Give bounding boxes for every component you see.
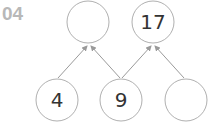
bottom-middle-value: 9 [115,88,128,112]
arrow-9-to-top-right [122,46,151,78]
arrow-9-to-top-left [91,46,120,78]
arrows [58,46,184,78]
arrow-4-to-top-left [58,46,87,78]
bottom-left-value: 4 [51,88,64,112]
arrow-blank-to-top-right [155,46,184,78]
top-circle-right[interactable]: 17 [132,1,174,43]
bottom-circle-left[interactable]: 4 [36,79,78,121]
top-right-value: 17 [140,10,165,34]
bottom-circle-right[interactable] [165,79,207,121]
top-circle-left[interactable] [67,1,109,43]
bottom-circle-middle[interactable]: 9 [100,79,142,121]
number-pyramid-diagram: 17 4 9 [0,0,208,122]
